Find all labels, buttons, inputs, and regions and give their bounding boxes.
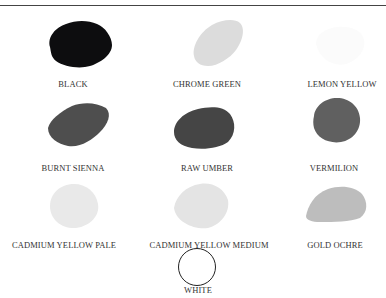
- paint-blob-chrome-green: [194, 20, 243, 66]
- swatch-cadmium-yellow-medium: [172, 182, 230, 232]
- swatch-white: [178, 248, 216, 286]
- label-vermilion: VERMILION: [310, 163, 359, 173]
- paint-blob-vermilion: [313, 98, 360, 142]
- paint-blob-gold-ochre: [306, 187, 366, 222]
- swatch-gold-ochre: [304, 184, 370, 224]
- label-gold-ochre: GOLD OCHRE: [307, 240, 363, 250]
- swatch-lemon-yellow: [310, 22, 370, 68]
- paint-blob-cadmium-yellow-pale: [50, 184, 98, 228]
- swatch-burnt-sienna: [46, 100, 112, 150]
- top-rule: [0, 5, 386, 6]
- label-burnt-sienna: BURNT SIENNA: [41, 163, 104, 173]
- label-cadmium-yellow-pale: CADMIUM YELLOW PALE: [12, 240, 116, 250]
- label-cadmium-yellow-medium: CADMIUM YELLOW MEDIUM: [149, 240, 268, 250]
- paint-blob-lemon-yellow: [316, 27, 364, 65]
- label-raw-umber: RAW UMBER: [181, 163, 233, 173]
- label-black: BLACK: [58, 79, 87, 89]
- label-chrome-green: CHROME GREEN: [173, 79, 241, 89]
- label-white: WHITE: [184, 285, 212, 295]
- swatch-black: [42, 17, 114, 69]
- swatch-raw-umber: [172, 104, 238, 150]
- label-lemon-yellow: LEMON YELLOW: [307, 79, 376, 89]
- paint-blob-raw-umber: [174, 107, 234, 149]
- swatch-vermilion: [311, 96, 363, 146]
- paint-blob-burnt-sienna: [48, 103, 109, 146]
- paint-blob-black: [49, 21, 112, 67]
- paint-blob-cadmium-yellow-medium: [174, 184, 228, 229]
- swatch-cadmium-yellow-pale: [46, 182, 102, 230]
- swatch-chrome-green: [190, 18, 246, 68]
